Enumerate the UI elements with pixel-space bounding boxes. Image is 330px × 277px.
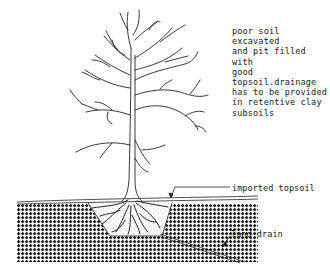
land-drain-label: land drain xyxy=(231,229,283,239)
topsoil-leader xyxy=(169,187,230,198)
tree-branches xyxy=(70,10,208,172)
planting-note: poor soil excavated and pit filled with … xyxy=(232,26,330,118)
imported-topsoil-label: imported topsoil xyxy=(232,183,315,193)
tree-trunk xyxy=(122,48,142,201)
ground-surface xyxy=(17,196,258,204)
